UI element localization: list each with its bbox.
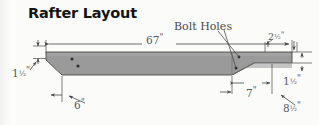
dimension-label-right-top-offset: 2½" xyxy=(268,31,284,42)
dimension-label-left-thickness: 1½" xyxy=(12,66,30,78)
dimension-right-thickness xyxy=(292,52,312,71)
dimension-label-right-overall: 8½" xyxy=(283,101,301,113)
dimension-label-right-thickness: 1½" xyxy=(283,74,301,86)
dimension-label-left-chamfer: 6" xyxy=(74,98,85,110)
bolt-hole-left-upper xyxy=(71,58,74,61)
rafter-top-highlight xyxy=(47,53,291,56)
dimension-left-thickness xyxy=(30,40,46,70)
dimension-label-right-taper-run: 7" xyxy=(246,86,257,98)
leader-left-thickness xyxy=(30,62,36,70)
rafter-layout-drawing: Rafter Layout Bolt Holes xyxy=(0,0,319,125)
drawing-canvas xyxy=(0,0,319,125)
bolt-hole-left-lower xyxy=(76,64,79,67)
rafter-beam xyxy=(46,52,292,75)
dimension-overall-length xyxy=(46,40,292,53)
dimension-label-overall-length: 67" xyxy=(146,33,163,45)
